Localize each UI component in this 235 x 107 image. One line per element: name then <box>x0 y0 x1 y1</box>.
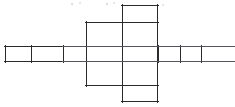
net-diagram-canvas <box>0 0 235 107</box>
speck-4 <box>113 2 115 4</box>
speck-1 <box>71 3 73 5</box>
speck-5 <box>162 4 164 6</box>
speck-3 <box>106 3 108 5</box>
speck-2 <box>79 2 81 4</box>
figure-root: Polyomino net diagram Cross-shaped grid … <box>0 0 235 107</box>
net-faces <box>5 5 235 102</box>
